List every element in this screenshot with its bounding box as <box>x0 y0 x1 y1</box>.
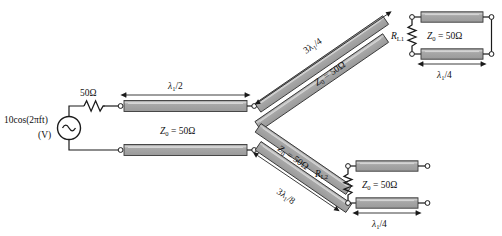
main-line-length-label: λ1/2 <box>167 81 183 92</box>
load2-node-top <box>346 164 351 169</box>
main-line-impedance-label: Z0 = 50Ω <box>160 126 195 137</box>
voltage-source <box>58 117 81 140</box>
upper-stub-impedance-label: Z0 = 50Ω <box>427 31 462 42</box>
series-resistor <box>84 101 105 111</box>
main-line-dimension <box>126 93 245 98</box>
upper-branch-dimension <box>260 15 388 102</box>
upper-stub-length-label: λ1/4 <box>436 70 452 81</box>
upper-stub-terminal-bottom <box>489 52 494 57</box>
upper-stub-terminal-top <box>489 15 494 20</box>
circuit-diagram-figure: λ1/2 Z0 = 50Ω 3λ1/4 Z0 = 50Ω <box>0 0 502 236</box>
series-resistor-label: 50Ω <box>80 88 97 98</box>
load-resistor-1 <box>408 19 416 51</box>
load1-node-top <box>410 15 415 20</box>
source-terminal-top <box>118 104 123 109</box>
lower-stub-terminal-top <box>425 164 430 169</box>
source-label-line1: 10cos(2πft) <box>4 115 48 126</box>
source-terminal-bottom <box>118 148 123 153</box>
load2-node-bottom <box>346 201 351 206</box>
lower-stub-length-label: λ1/4 <box>371 219 387 230</box>
load1-node-bottom <box>410 52 415 57</box>
upper-branch-length-label: 3λ1/4 <box>301 36 324 57</box>
upper-stub-dimension <box>423 62 481 67</box>
lower-stub-impedance-label: Z0 = 50Ω <box>362 180 397 191</box>
lower-stub-dimension <box>358 211 416 216</box>
source-label-line2: (V) <box>38 130 51 141</box>
lower-branch-length-label: 3λ1/8 <box>274 186 297 207</box>
load1-label: RL1 <box>390 31 404 42</box>
lower-stub-terminal-bottom <box>425 201 430 206</box>
